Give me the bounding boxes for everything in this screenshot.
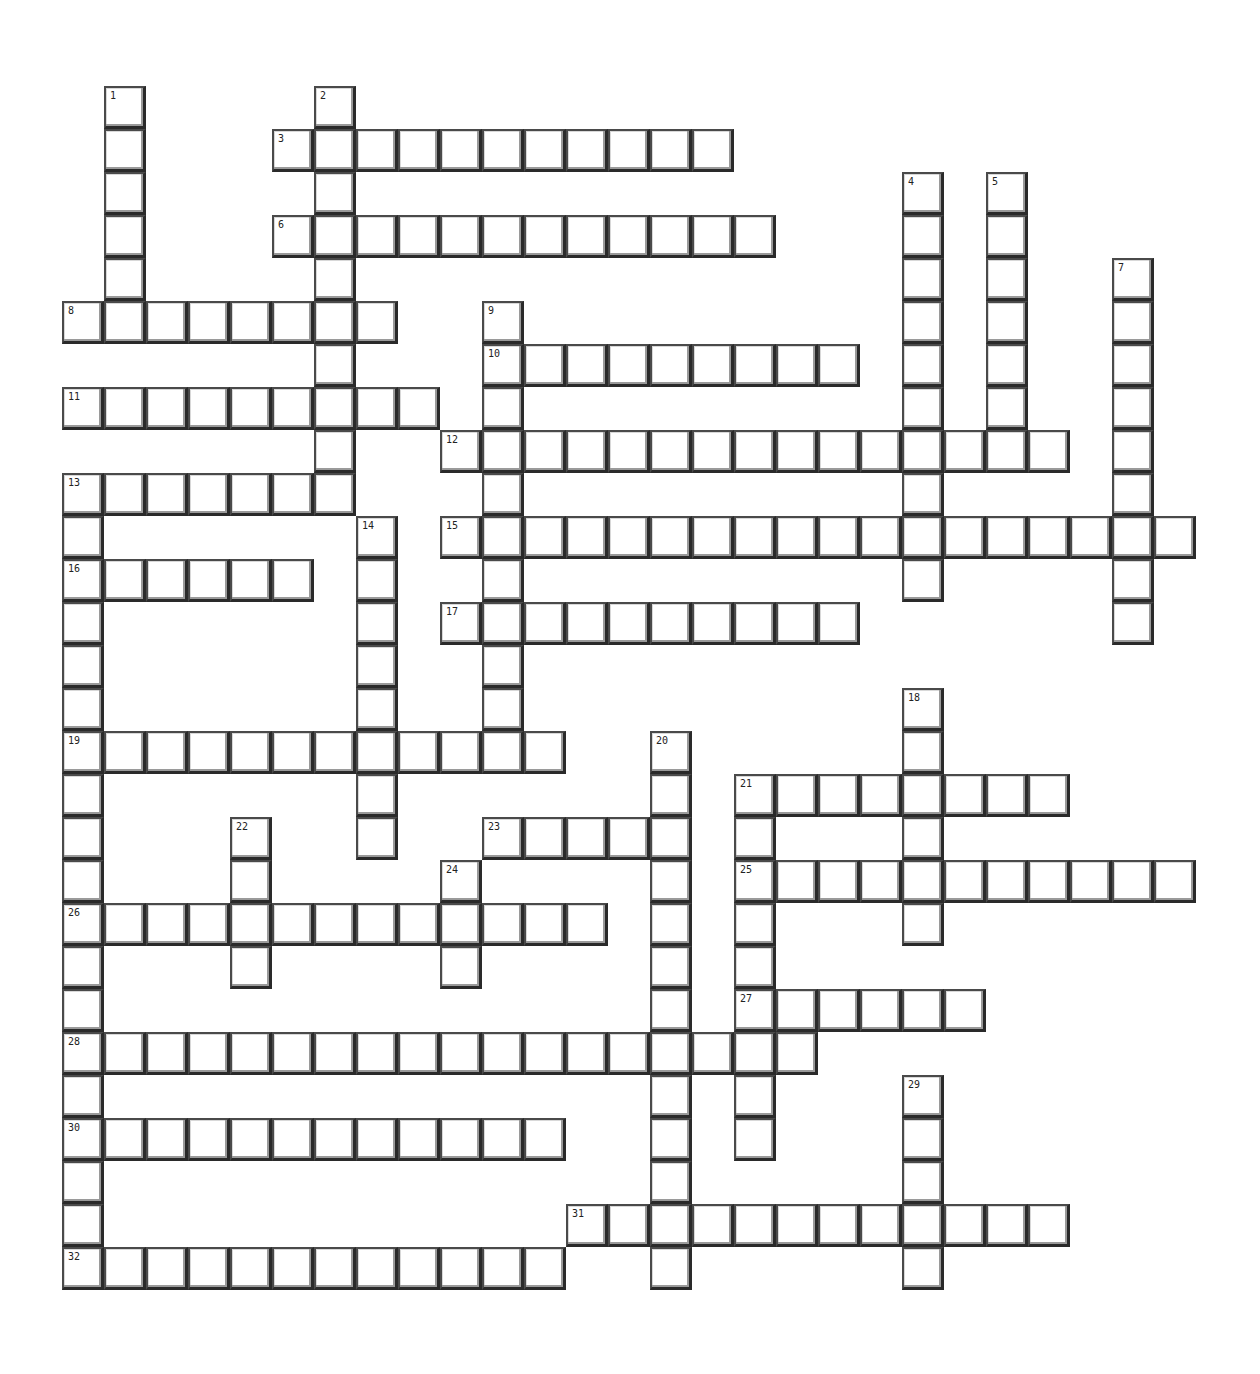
- crossword-cell[interactable]: [146, 1032, 188, 1075]
- crossword-cell[interactable]: [146, 1247, 188, 1290]
- crossword-cell[interactable]: [902, 731, 944, 774]
- crossword-cell[interactable]: [524, 430, 566, 473]
- crossword-cell[interactable]: [62, 645, 104, 688]
- crossword-cell[interactable]: [188, 731, 230, 774]
- crossword-cell[interactable]: [230, 903, 272, 946]
- crossword-cell[interactable]: [608, 1204, 650, 1247]
- crossword-cell[interactable]: 25: [734, 860, 776, 903]
- crossword-cell[interactable]: [650, 817, 692, 860]
- crossword-cell[interactable]: [944, 516, 986, 559]
- crossword-cell[interactable]: [188, 903, 230, 946]
- crossword-cell[interactable]: [272, 301, 314, 344]
- crossword-cell[interactable]: 28: [62, 1032, 104, 1075]
- crossword-cell[interactable]: [1028, 430, 1070, 473]
- crossword-cell[interactable]: [650, 903, 692, 946]
- crossword-cell[interactable]: 4: [902, 172, 944, 215]
- crossword-cell[interactable]: 1: [104, 86, 146, 129]
- crossword-cell[interactable]: [62, 860, 104, 903]
- crossword-cell[interactable]: [230, 1118, 272, 1161]
- crossword-cell[interactable]: [1028, 774, 1070, 817]
- crossword-cell[interactable]: [860, 774, 902, 817]
- crossword-cell[interactable]: [524, 1118, 566, 1161]
- crossword-cell[interactable]: [650, 1204, 692, 1247]
- crossword-cell[interactable]: [230, 1032, 272, 1075]
- crossword-cell[interactable]: [62, 1204, 104, 1247]
- crossword-cell[interactable]: [314, 301, 356, 344]
- crossword-cell[interactable]: [482, 1032, 524, 1075]
- crossword-cell[interactable]: [566, 903, 608, 946]
- crossword-cell[interactable]: [104, 903, 146, 946]
- crossword-cell[interactable]: [440, 1247, 482, 1290]
- crossword-cell[interactable]: [734, 1204, 776, 1247]
- crossword-cell[interactable]: [902, 430, 944, 473]
- crossword-cell[interactable]: [104, 172, 146, 215]
- crossword-cell[interactable]: [734, 1075, 776, 1118]
- crossword-cell[interactable]: [188, 387, 230, 430]
- crossword-cell[interactable]: [692, 1204, 734, 1247]
- crossword-cell[interactable]: 11: [62, 387, 104, 430]
- crossword-cell[interactable]: [734, 1118, 776, 1161]
- crossword-cell[interactable]: [650, 1075, 692, 1118]
- crossword-cell[interactable]: [398, 1247, 440, 1290]
- crossword-cell[interactable]: [314, 215, 356, 258]
- crossword-cell[interactable]: [482, 1118, 524, 1161]
- crossword-cell[interactable]: [986, 301, 1028, 344]
- crossword-cell[interactable]: [62, 1075, 104, 1118]
- crossword-cell[interactable]: [986, 215, 1028, 258]
- crossword-cell[interactable]: [734, 215, 776, 258]
- crossword-cell[interactable]: [818, 602, 860, 645]
- crossword-cell[interactable]: [356, 688, 398, 731]
- crossword-cell[interactable]: [902, 1161, 944, 1204]
- crossword-cell[interactable]: 15: [440, 516, 482, 559]
- crossword-cell[interactable]: [482, 215, 524, 258]
- crossword-cell[interactable]: [524, 903, 566, 946]
- crossword-cell[interactable]: [314, 387, 356, 430]
- crossword-cell[interactable]: [1112, 301, 1154, 344]
- crossword-cell[interactable]: [818, 989, 860, 1032]
- crossword-cell[interactable]: [104, 559, 146, 602]
- crossword-cell[interactable]: [1112, 602, 1154, 645]
- crossword-cell[interactable]: 31: [566, 1204, 608, 1247]
- crossword-cell[interactable]: [104, 731, 146, 774]
- crossword-cell[interactable]: [650, 860, 692, 903]
- crossword-cell[interactable]: [902, 860, 944, 903]
- crossword-cell[interactable]: [650, 1161, 692, 1204]
- crossword-cell[interactable]: [524, 1032, 566, 1075]
- crossword-cell[interactable]: [734, 430, 776, 473]
- crossword-cell[interactable]: [1112, 430, 1154, 473]
- crossword-cell[interactable]: [314, 258, 356, 301]
- crossword-cell[interactable]: [356, 645, 398, 688]
- crossword-cell[interactable]: [398, 1032, 440, 1075]
- crossword-cell[interactable]: [1112, 387, 1154, 430]
- crossword-cell[interactable]: [692, 129, 734, 172]
- crossword-cell[interactable]: [902, 215, 944, 258]
- crossword-cell[interactable]: [566, 215, 608, 258]
- crossword-cell[interactable]: 32: [62, 1247, 104, 1290]
- crossword-cell[interactable]: 29: [902, 1075, 944, 1118]
- crossword-cell[interactable]: [524, 817, 566, 860]
- crossword-cell[interactable]: [356, 129, 398, 172]
- crossword-cell[interactable]: [902, 387, 944, 430]
- crossword-cell[interactable]: [1028, 860, 1070, 903]
- crossword-cell[interactable]: [482, 903, 524, 946]
- crossword-cell[interactable]: [440, 1118, 482, 1161]
- crossword-cell[interactable]: [188, 1032, 230, 1075]
- crossword-cell[interactable]: [314, 344, 356, 387]
- crossword-cell[interactable]: [944, 860, 986, 903]
- crossword-cell[interactable]: [62, 817, 104, 860]
- crossword-cell[interactable]: [902, 1247, 944, 1290]
- crossword-cell[interactable]: [356, 817, 398, 860]
- crossword-cell[interactable]: [608, 129, 650, 172]
- crossword-cell[interactable]: [902, 516, 944, 559]
- crossword-cell[interactable]: 18: [902, 688, 944, 731]
- crossword-cell[interactable]: [398, 903, 440, 946]
- crossword-cell[interactable]: [440, 946, 482, 989]
- crossword-cell[interactable]: [776, 989, 818, 1032]
- crossword-cell[interactable]: [398, 215, 440, 258]
- crossword-cell[interactable]: [440, 1032, 482, 1075]
- crossword-cell[interactable]: [1154, 860, 1196, 903]
- crossword-cell[interactable]: [692, 516, 734, 559]
- crossword-cell[interactable]: [146, 301, 188, 344]
- crossword-cell[interactable]: [146, 387, 188, 430]
- crossword-cell[interactable]: [566, 602, 608, 645]
